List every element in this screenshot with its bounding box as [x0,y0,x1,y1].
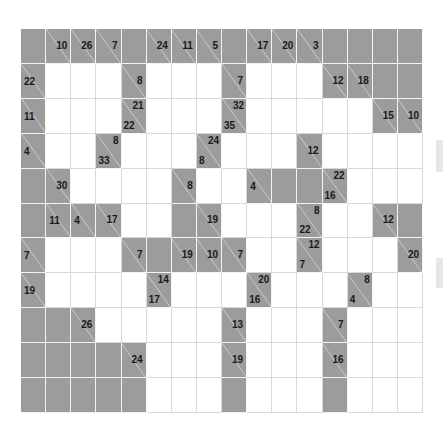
kakuro-entry-cell[interactable] [96,238,121,273]
kakuro-entry-cell[interactable] [272,134,297,169]
kakuro-entry-cell[interactable] [172,343,197,378]
kakuro-entry-cell[interactable] [96,64,121,99]
kakuro-entry-cell[interactable] [247,238,272,273]
kakuro-entry-cell[interactable] [71,64,96,99]
kakuro-entry-cell[interactable] [147,169,172,204]
kakuro-entry-cell[interactable] [398,378,423,413]
kakuro-entry-cell[interactable] [197,169,222,204]
kakuro-entry-cell[interactable] [172,134,197,169]
kakuro-entry-cell[interactable] [71,134,96,169]
kakuro-entry-cell[interactable] [147,308,172,343]
kakuro-entry-cell[interactable] [247,378,272,413]
kakuro-clue-block: 26 [71,308,96,343]
kakuro-entry-cell[interactable] [398,273,423,308]
kakuro-entry-cell[interactable] [348,99,373,134]
kakuro-entry-cell[interactable] [323,204,348,239]
kakuro-entry-cell[interactable] [96,273,121,308]
kakuro-entry-cell[interactable] [197,99,222,134]
kakuro-entry-cell[interactable] [247,134,272,169]
kakuro-entry-cell[interactable] [122,273,147,308]
kakuro-entry-cell[interactable] [348,308,373,343]
kakuro-entry-cell[interactable] [373,378,398,413]
kakuro-entry-cell[interactable] [46,134,71,169]
kakuro-entry-cell[interactable] [96,308,121,343]
kakuro-entry-cell[interactable] [272,99,297,134]
kakuro-entry-cell[interactable] [147,99,172,134]
kakuro-entry-cell[interactable] [398,169,423,204]
kakuro-entry-cell[interactable] [297,64,322,99]
kakuro-grid[interactable]: 1026724115172032287121811212232351510483… [21,29,423,413]
kakuro-entry-cell[interactable] [398,134,423,169]
kakuro-entry-cell[interactable] [222,169,247,204]
kakuro-entry-cell[interactable] [96,99,121,134]
kakuro-entry-cell[interactable] [147,134,172,169]
kakuro-entry-cell[interactable] [46,64,71,99]
kakuro-entry-cell[interactable] [373,238,398,273]
kakuro-entry-cell[interactable] [247,343,272,378]
kakuro-entry-cell[interactable] [222,134,247,169]
kakuro-entry-cell[interactable] [46,273,71,308]
kakuro-entry-cell[interactable] [348,343,373,378]
kakuro-entry-cell[interactable] [122,308,147,343]
kakuro-entry-cell[interactable] [247,308,272,343]
kakuro-entry-cell[interactable] [373,169,398,204]
kakuro-entry-cell[interactable] [297,99,322,134]
kakuro-entry-cell[interactable] [373,273,398,308]
kakuro-entry-cell[interactable] [222,273,247,308]
kakuro-entry-cell[interactable] [272,343,297,378]
kakuro-entry-cell[interactable] [348,204,373,239]
kakuro-entry-cell[interactable] [247,204,272,239]
kakuro-entry-cell[interactable] [71,169,96,204]
kakuro-entry-cell[interactable] [197,273,222,308]
kakuro-entry-cell[interactable] [197,64,222,99]
kakuro-entry-cell[interactable] [71,238,96,273]
kakuro-entry-cell[interactable] [272,204,297,239]
kakuro-entry-cell[interactable] [398,308,423,343]
kakuro-entry-cell[interactable] [147,64,172,99]
kakuro-entry-cell[interactable] [398,343,423,378]
kakuro-entry-cell[interactable] [348,169,373,204]
kakuro-entry-cell[interactable] [348,378,373,413]
kakuro-entry-cell[interactable] [197,378,222,413]
kakuro-entry-cell[interactable] [297,378,322,413]
kakuro-entry-cell[interactable] [373,308,398,343]
kakuro-entry-cell[interactable] [272,308,297,343]
kakuro-entry-cell[interactable] [46,99,71,134]
kakuro-entry-cell[interactable] [172,99,197,134]
kakuro-entry-cell[interactable] [172,273,197,308]
kakuro-entry-cell[interactable] [297,343,322,378]
kakuro-entry-cell[interactable] [197,343,222,378]
kakuro-entry-cell[interactable] [272,64,297,99]
kakuro-entry-cell[interactable] [272,273,297,308]
kakuro-entry-cell[interactable] [122,169,147,204]
kakuro-entry-cell[interactable] [172,308,197,343]
kakuro-entry-cell[interactable] [197,308,222,343]
kakuro-entry-cell[interactable] [323,273,348,308]
kakuro-entry-cell[interactable] [71,99,96,134]
kakuro-entry-cell[interactable] [272,238,297,273]
kakuro-entry-cell[interactable] [147,378,172,413]
kakuro-entry-cell[interactable] [71,273,96,308]
kakuro-entry-cell[interactable] [247,64,272,99]
kakuro-entry-cell[interactable] [348,134,373,169]
kakuro-entry-cell[interactable] [297,273,322,308]
kakuro-entry-cell[interactable] [323,134,348,169]
kakuro-entry-cell[interactable] [122,134,147,169]
kakuro-entry-cell[interactable] [222,204,247,239]
kakuro-entry-cell[interactable] [96,169,121,204]
kakuro-entry-cell[interactable] [373,343,398,378]
kakuro-entry-cell[interactable] [147,204,172,239]
kakuro-entry-cell[interactable] [172,64,197,99]
kakuro-entry-cell[interactable] [272,378,297,413]
kakuro-entry-cell[interactable] [46,238,71,273]
kakuro-entry-cell[interactable] [297,308,322,343]
kakuro-entry-cell[interactable] [323,99,348,134]
kakuro-entry-cell[interactable] [122,204,147,239]
kakuro-entry-cell[interactable] [172,378,197,413]
kakuro-entry-cell[interactable] [348,238,373,273]
kakuro-entry-cell[interactable] [147,343,172,378]
kakuro-entry-cell[interactable] [323,238,348,273]
kakuro-entry-cell[interactable] [247,99,272,134]
down-clue-number: 18 [358,75,369,85]
kakuro-entry-cell[interactable] [373,134,398,169]
